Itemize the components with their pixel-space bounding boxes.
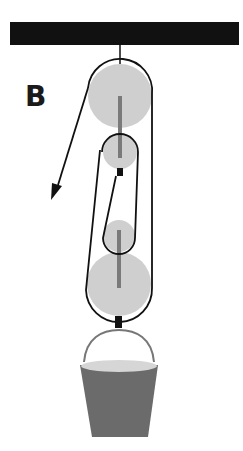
pull-arrow-icon: [51, 183, 62, 200]
bucket-handle: [84, 330, 154, 362]
pulley-diagram: [0, 0, 243, 451]
upper-axle: [118, 96, 122, 158]
lower-axle: [117, 230, 121, 288]
bucket-body: [80, 365, 158, 437]
ceiling-beam: [10, 22, 239, 45]
pull-rope: [58, 88, 88, 185]
bucket-rim: [81, 360, 157, 372]
bucket-hook: [115, 316, 122, 328]
rope-anchor: [117, 168, 123, 176]
